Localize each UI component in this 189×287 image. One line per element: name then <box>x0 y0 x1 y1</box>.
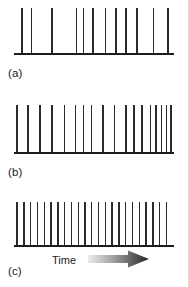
spike-mark <box>76 8 77 54</box>
spike-mark <box>98 202 99 246</box>
spike-mark <box>170 105 171 152</box>
panel-c-label: (c) <box>8 266 22 278</box>
spike-mark <box>50 202 51 246</box>
spike-mark <box>155 105 156 152</box>
spike-mark <box>83 105 84 152</box>
spike-mark <box>51 8 52 54</box>
spike-mark <box>153 8 154 54</box>
spike-train-figure: (a) (b) (c) Time <box>0 0 189 287</box>
panel-c-baseline <box>14 245 174 247</box>
spike-mark <box>105 8 106 54</box>
panel-a: (a) <box>0 0 189 95</box>
spike-mark <box>30 202 31 246</box>
panel-a-baseline <box>14 53 174 55</box>
spike-mark <box>31 8 32 54</box>
panel-b-spike-train <box>14 105 174 152</box>
spike-mark <box>64 202 65 246</box>
spike-mark <box>115 8 116 54</box>
spike-mark <box>141 105 142 152</box>
spike-mark <box>57 202 58 246</box>
spike-mark <box>37 202 38 246</box>
spike-mark <box>152 202 153 246</box>
panel-b: (b) <box>0 95 189 192</box>
spike-mark <box>125 202 126 246</box>
spike-mark <box>114 105 115 152</box>
spike-mark <box>139 202 140 246</box>
spike-mark <box>159 202 160 246</box>
spike-mark <box>133 105 134 152</box>
spike-mark <box>145 202 146 246</box>
spike-mark <box>166 105 167 152</box>
spike-mark <box>125 105 126 152</box>
spike-mark <box>92 8 93 54</box>
panel-a-spike-train <box>14 8 174 54</box>
spike-mark <box>21 8 22 54</box>
spike-mark <box>118 202 119 246</box>
spike-mark <box>27 105 28 152</box>
spike-mark <box>102 105 103 152</box>
spike-mark <box>166 202 167 246</box>
spike-mark <box>111 202 112 246</box>
spike-mark <box>83 8 84 54</box>
spike-mark <box>16 202 17 246</box>
spike-mark <box>78 202 79 246</box>
spike-mark <box>39 105 40 152</box>
spike-mark <box>64 105 65 152</box>
spike-mark <box>91 105 92 152</box>
spike-mark <box>167 8 168 54</box>
spike-mark <box>91 202 92 246</box>
spike-mark <box>161 105 162 152</box>
spike-mark <box>105 202 106 246</box>
panel-c: (c) Time <box>0 192 189 287</box>
spike-mark <box>84 202 85 246</box>
spike-mark <box>44 202 45 246</box>
time-axis-label: Time <box>52 255 76 266</box>
spike-mark <box>150 105 151 152</box>
spike-mark <box>23 202 24 246</box>
spike-mark <box>51 105 52 152</box>
spike-mark <box>16 105 17 152</box>
panel-c-spike-train <box>14 202 174 246</box>
spike-mark <box>75 105 76 152</box>
panel-b-label: (b) <box>8 167 22 179</box>
spike-mark <box>136 8 137 54</box>
panel-b-baseline <box>14 152 174 154</box>
spike-mark <box>132 202 133 246</box>
panel-a-label: (a) <box>8 68 22 80</box>
spike-mark <box>125 8 126 54</box>
spike-mark <box>71 202 72 246</box>
time-arrow-icon <box>88 250 150 272</box>
